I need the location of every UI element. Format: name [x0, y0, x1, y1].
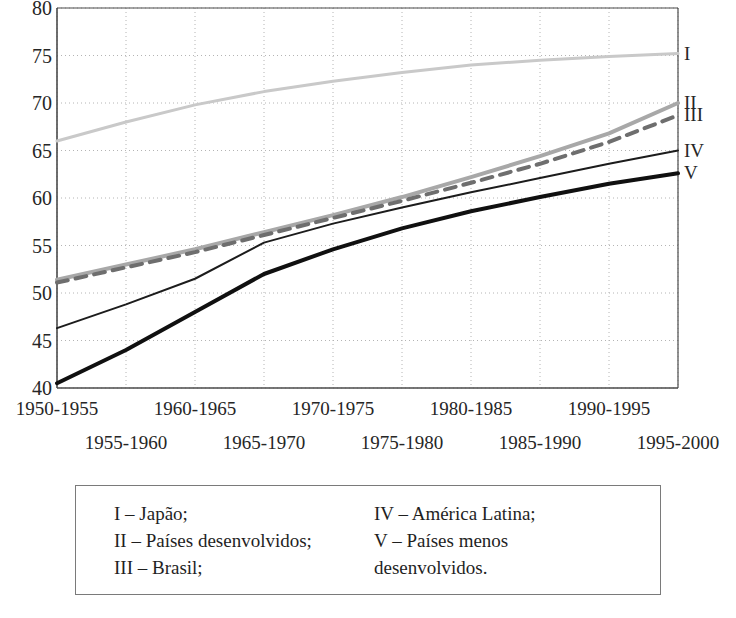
y-tick-label-55: 55	[6, 236, 52, 256]
x-tick-label-1965-1970: 1965-1970	[204, 432, 324, 454]
legend-entry: I – Japão;	[114, 500, 356, 527]
life-expectancy-figure: 807570656055504540 IIIIIIIVV 1950-195519…	[0, 0, 736, 618]
legend-column-left: I – Japão;II – Países desenvolvidos;III …	[76, 500, 356, 594]
legend-box: I – Japão;II – Países desenvolvidos;III …	[75, 485, 661, 595]
legend-column-right: IV – América Latina;V – Países menos des…	[356, 500, 656, 594]
x-tick-label-1960-1965: 1960-1965	[135, 398, 255, 420]
gridlines-group	[57, 8, 678, 388]
legend-entry: II – Países desenvolvidos;	[114, 527, 356, 554]
series-end-label-i: I	[684, 44, 690, 63]
series-lines-group	[57, 54, 678, 384]
line-chart-svg	[0, 0, 736, 400]
x-tick-label-1955-1960: 1955-1960	[66, 432, 186, 454]
x-tick-label-1950-1955: 1950-1955	[0, 398, 117, 420]
y-axis-tick-labels: 807570656055504540	[0, 0, 52, 400]
x-tick-label-1970-1975: 1970-1975	[273, 398, 393, 420]
series-end-labels: IIIIIIIVV	[684, 0, 736, 400]
series-end-label-v: V	[684, 163, 698, 182]
y-tick-label-80: 80	[6, 0, 52, 18]
y-tick-label-75: 75	[6, 46, 52, 66]
y-tick-label-60: 60	[6, 188, 52, 208]
x-tick-label-1990-1995: 1990-1995	[549, 398, 669, 420]
x-tick-label-1980-1985: 1980-1985	[411, 398, 531, 420]
series-line-i	[57, 54, 678, 141]
y-tick-label-45: 45	[6, 331, 52, 351]
series-end-label-iii: III	[684, 105, 703, 124]
x-tick-label-1975-1980: 1975-1980	[342, 432, 462, 454]
y-tick-label-40: 40	[6, 378, 52, 398]
x-axis-tick-labels: 1950-19551955-19601960-19651965-19701970…	[0, 396, 736, 468]
chart-plot-area: 807570656055504540 IIIIIIIVV	[0, 0, 736, 400]
series-line-ii	[57, 103, 678, 280]
y-tick-label-50: 50	[6, 283, 52, 303]
legend-entry: IV – América Latina;	[374, 500, 656, 527]
series-end-label-iv: IV	[684, 141, 704, 160]
y-tick-label-70: 70	[6, 93, 52, 113]
legend-entry: III – Brasil;	[114, 554, 356, 581]
x-tick-label-1995-2000: 1995-2000	[618, 432, 736, 454]
y-tick-label-65: 65	[6, 141, 52, 161]
x-tick-label-1985-1990: 1985-1990	[480, 432, 600, 454]
legend-inner: I – Japão;II – Países desenvolvidos;III …	[76, 486, 660, 594]
axis-frame	[57, 8, 678, 388]
legend-entry: V – Países menos desenvolvidos.	[374, 527, 656, 581]
